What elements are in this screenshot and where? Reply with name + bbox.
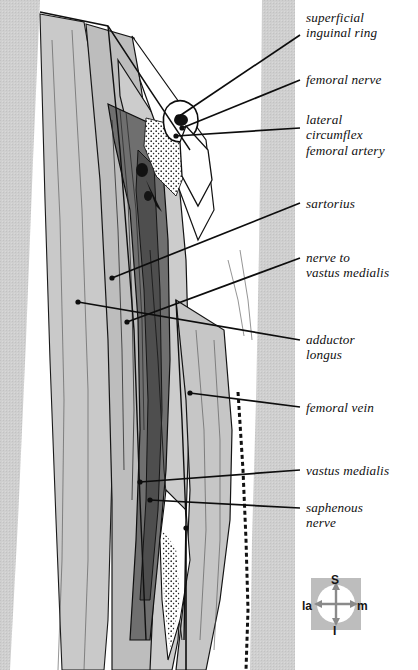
lateral-circumflex-artery-vessel bbox=[136, 163, 148, 177]
label-lateral-circumflex-femoral-artery: lateral circumflex femoral artery bbox=[306, 112, 385, 158]
compass-label-inferior: I bbox=[333, 624, 336, 638]
label-vastus-medialis: vastus medialis bbox=[306, 463, 389, 478]
leader-dot-femoral-vein bbox=[187, 390, 192, 395]
dissection-illustration bbox=[0, 0, 418, 670]
label-nerve-to-vastus-medialis: nerve to vastus medialis bbox=[306, 250, 389, 281]
anatomical-figure: superficial inguinal ring femoral nerve … bbox=[0, 0, 418, 670]
compass-label-lateral: la bbox=[302, 599, 312, 613]
compass-label-medial: m bbox=[357, 599, 368, 613]
leader-dot-superficial-inguinal-ring bbox=[175, 114, 180, 119]
label-sartorius: sartorius bbox=[306, 196, 355, 211]
label-saphenous-nerve: saphenous nerve bbox=[306, 500, 363, 531]
label-adductor-longus: adductor longus bbox=[306, 332, 355, 363]
leader-dot-saphenous-nerve bbox=[147, 497, 152, 502]
leader-dot-vastus-medialis bbox=[137, 479, 142, 484]
artery-branch-node bbox=[144, 191, 152, 201]
orientation-compass: S I la m bbox=[303, 574, 369, 640]
label-femoral-vein: femoral vein bbox=[306, 400, 374, 415]
compass-label-superior: S bbox=[331, 573, 339, 587]
leader-dot-sartorius bbox=[109, 275, 114, 280]
label-femoral-nerve: femoral nerve bbox=[306, 72, 382, 87]
leader-dot-nerve-to-vastus-medialis bbox=[124, 319, 129, 324]
label-superficial-inguinal-ring: superficial inguinal ring bbox=[306, 10, 377, 41]
leader-dot-lateral-circumflex-femoral-artery bbox=[173, 133, 178, 138]
saphenous-nerve-leader-dot bbox=[183, 525, 188, 530]
leader-dot-femoral-nerve bbox=[179, 125, 184, 130]
leader-dot-adductor-longus bbox=[75, 299, 80, 304]
